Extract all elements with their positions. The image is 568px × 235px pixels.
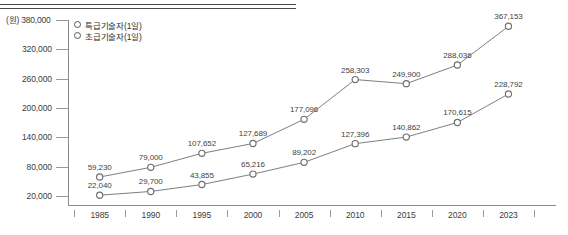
x-axis-separator-tick — [125, 210, 126, 217]
x-axis-separator-tick — [432, 210, 433, 217]
y-axis-unit-text: (원) — [6, 15, 19, 25]
y-axis-tick — [56, 108, 68, 109]
legend-label-entry: 초급기술자(1일) — [85, 30, 142, 42]
data-point-value-label: 59,230 — [88, 163, 112, 172]
data-point-marker[interactable] — [250, 171, 256, 177]
data-point-value-label: 170,615 — [443, 108, 471, 117]
data-point-marker[interactable] — [97, 192, 103, 198]
chart-legend: 특급기술자(1일) 초급기술자(1일) — [74, 19, 142, 41]
data-point-value-label: 177,096 — [290, 105, 318, 114]
data-point-value-label: 288,036 — [443, 51, 471, 60]
legend-item-entry[interactable]: 초급기술자(1일) — [74, 30, 142, 41]
data-point-marker[interactable] — [199, 150, 205, 156]
x-axis-tick-label: 2000 — [244, 210, 263, 220]
y-axis-tick — [56, 196, 68, 197]
x-axis-tick-label: 2015 — [397, 210, 416, 220]
x-axis-tick-label: 1990 — [142, 210, 161, 220]
data-point-value-label: 249,900 — [392, 70, 420, 79]
y-axis-unit-caption: (원) 380,000 — [6, 13, 51, 25]
data-point-marker[interactable] — [454, 119, 460, 125]
y-axis-tick — [56, 137, 68, 138]
data-point-value-label: 29,700 — [139, 177, 163, 186]
data-point-marker[interactable] — [505, 23, 511, 29]
header-divider-rule — [0, 4, 296, 9]
x-axis-separator-tick — [381, 210, 382, 217]
legend-item-premium[interactable]: 특급기술자(1일) — [74, 19, 142, 30]
y-axis-tick — [56, 167, 68, 168]
data-point-value-label: 79,000 — [139, 153, 163, 162]
data-point-value-label: 22,040 — [88, 181, 112, 190]
data-point-value-label: 65,216 — [241, 160, 265, 169]
x-axis-separator-tick — [330, 210, 331, 217]
x-axis-separator-tick — [176, 210, 177, 217]
data-point-marker[interactable] — [505, 91, 511, 97]
y-axis-tick-label: 20,000 — [27, 191, 52, 201]
chart-figure: (원) 380,000 320,000260,000200,000140,000… — [0, 0, 568, 235]
data-point-marker[interactable] — [352, 141, 358, 147]
data-point-marker[interactable] — [301, 159, 307, 165]
x-axis-separator-tick — [279, 210, 280, 217]
x-axis-tick-label: 2023 — [499, 210, 518, 220]
y-axis-tick-label: 200,000 — [22, 103, 52, 113]
data-point-value-label: 367,153 — [494, 12, 522, 21]
y-axis-tick-label: 320,000 — [22, 44, 52, 54]
y-axis-tick — [56, 49, 68, 50]
data-point-value-label: 107,652 — [188, 139, 216, 148]
y-axis-tick — [56, 20, 68, 21]
data-point-value-label: 43,855 — [190, 171, 214, 180]
data-point-marker[interactable] — [148, 188, 154, 194]
x-axis-tick-label: 2005 — [295, 210, 314, 220]
data-point-value-label: 127,689 — [239, 129, 267, 138]
legend-marker-circle-icon — [74, 21, 81, 28]
data-point-marker[interactable] — [250, 140, 256, 146]
data-point-value-label: 258,303 — [341, 66, 369, 75]
x-axis-separator-tick — [227, 210, 228, 217]
y-axis-tick-label: 80,000 — [27, 162, 52, 172]
y-axis-tick — [56, 79, 68, 80]
x-axis-separator-tick — [534, 210, 535, 217]
data-point-value-label: 228,792 — [494, 80, 522, 89]
data-point-marker[interactable] — [199, 181, 205, 187]
data-point-value-label: 140,862 — [392, 123, 420, 132]
data-point-value-label: 127,396 — [341, 130, 369, 139]
data-point-marker[interactable] — [352, 76, 358, 82]
x-axis-tick-label: 2010 — [346, 210, 365, 220]
plot-area: 320,000260,000200,000140,00080,00020,000… — [68, 20, 556, 206]
y-axis-top-tick-text: 380,000 — [19, 15, 51, 25]
x-axis-separator-tick — [74, 210, 75, 217]
x-axis-separator-tick — [483, 210, 484, 217]
y-axis-tick-label: 260,000 — [22, 74, 52, 84]
legend-marker-circle-icon — [74, 32, 81, 39]
data-point-marker[interactable] — [454, 62, 460, 68]
y-axis-tick-label: 140,000 — [22, 132, 52, 142]
data-point-value-label: 89,202 — [292, 148, 316, 157]
data-point-marker[interactable] — [301, 116, 307, 122]
divider-line-top — [0, 4, 296, 5]
x-axis-tick-label: 1995 — [193, 210, 212, 220]
x-axis-tick-label: 1985 — [90, 210, 109, 220]
data-point-marker[interactable] — [148, 164, 154, 170]
x-axis-tick-label: 2020 — [448, 210, 467, 220]
divider-line-bottom — [0, 8, 296, 9]
data-point-marker[interactable] — [403, 134, 409, 140]
data-point-marker[interactable] — [97, 174, 103, 180]
data-point-marker[interactable] — [403, 81, 409, 87]
